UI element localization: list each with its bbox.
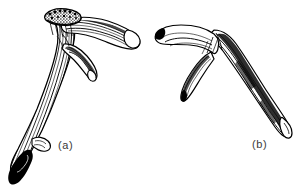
specimen-label-a: (a) xyxy=(58,139,73,151)
figure-container: (a) (b) xyxy=(0,0,305,195)
specimen-label-b: (b) xyxy=(252,138,267,150)
antler-illustration xyxy=(0,0,305,195)
